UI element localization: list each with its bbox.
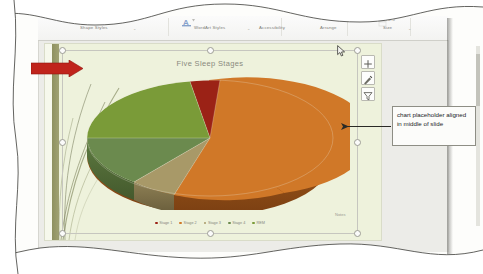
legend-label-rem: REM [256, 221, 264, 225]
chart-elements-button[interactable] [361, 55, 375, 69]
size-dialog-launcher-icon[interactable]: ⌄ [408, 26, 411, 31]
svg-text:3.5": 3.5" [388, 16, 397, 22]
resize-handle-top-center[interactable] [207, 47, 214, 54]
slide-status-strip: Notes [90, 211, 381, 220]
annotation-arrow-red [31, 60, 83, 77]
legend-label-stage-4: Stage 4 [232, 221, 245, 225]
wordart-styles-dialog-launcher-icon[interactable]: ⌄ [247, 26, 250, 31]
pie-chart[interactable] [70, 72, 350, 210]
ribbon-group-arrange[interactable]: Arrange [320, 25, 337, 30]
screenshot-root: Shape Styles ⌄ WordArt Styles ⌄ Accessib… [0, 0, 483, 274]
ribbon-group-wordart-styles[interactable]: WordArt Styles [194, 25, 225, 30]
resize-handle-top-right[interactable] [354, 47, 361, 54]
resize-handle-middle-left[interactable] [59, 139, 66, 146]
plus-icon [362, 58, 374, 70]
legend-swatch-stage-2 [179, 222, 182, 225]
ribbon-group-accessibility[interactable]: Accessibility [259, 25, 285, 30]
shape-fill-icon[interactable] [90, 15, 116, 27]
text-fill-icon[interactable]: A [178, 16, 198, 27]
legend-item[interactable]: Stage 1 [155, 221, 172, 225]
chart-placeholder[interactable]: Five Sleep Stages [62, 50, 358, 234]
notes-label[interactable]: Notes [335, 212, 345, 217]
pie-chart-svg [70, 72, 350, 210]
callout-text: chart placeholder aligned in middle of s… [397, 110, 471, 128]
legend-swatch-stage-4 [228, 222, 231, 225]
mouse-cursor-icon [337, 45, 346, 57]
chart-styles-button[interactable] [361, 71, 375, 85]
legend-swatch-stage-3 [204, 222, 207, 225]
legend-swatch-rem [252, 222, 255, 225]
legend-label-stage-2: Stage 2 [184, 221, 197, 225]
ribbon-group-labels: Shape Styles ⌄ WordArt Styles ⌄ Accessib… [38, 25, 448, 39]
chart-filters-button[interactable] [361, 87, 375, 101]
resize-handle-bottom-right[interactable] [354, 230, 361, 237]
scrollbar-thumb[interactable] [476, 54, 480, 106]
resize-handle-top-left[interactable] [59, 47, 66, 54]
chart-title[interactable]: Five Sleep Stages [62, 59, 358, 68]
legend-swatch-stage-1 [155, 222, 158, 225]
chart-quick-buttons[interactable] [361, 55, 374, 103]
legend-label-stage-1: Stage 1 [159, 221, 172, 225]
chart-legend[interactable]: Stage 1 Stage 2 Stage 3 Stage 4 REM [62, 221, 358, 225]
legend-item[interactable]: Stage 3 [204, 221, 221, 225]
vertical-scrollbar[interactable] [476, 46, 480, 226]
resize-handle-bottom-left[interactable] [59, 230, 66, 237]
resize-handle-middle-right[interactable] [354, 139, 361, 146]
legend-item[interactable]: Stage 4 [228, 221, 245, 225]
size-icon[interactable]: 3.5" [378, 14, 406, 27]
legend-item[interactable]: REM [252, 221, 265, 225]
callout-box: chart placeholder aligned in middle of s… [392, 106, 476, 146]
funnel-icon [362, 90, 374, 102]
legend-item[interactable]: Stage 2 [179, 221, 196, 225]
resize-handle-bottom-center[interactable] [207, 230, 214, 237]
shape-styles-dialog-launcher-icon[interactable]: ⌄ [133, 26, 136, 31]
brush-icon [362, 74, 374, 86]
callout-leader-line [343, 126, 391, 127]
callout-arrowhead-icon [340, 122, 350, 131]
legend-label-stage-3: Stage 3 [208, 221, 221, 225]
